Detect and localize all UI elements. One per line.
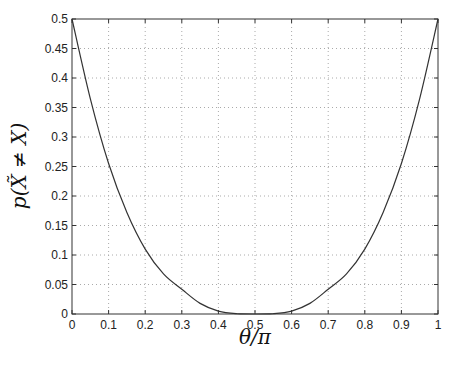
x-tick-label: 0.7: [320, 318, 337, 332]
y-tick-label: 0.25: [45, 160, 69, 174]
y-tick-label: 0.1: [51, 248, 68, 262]
y-tick-label: 0.5: [51, 12, 68, 26]
y-axis-label: p(X̃ ≠ X): [7, 123, 31, 209]
y-tick-label: 0.3: [51, 130, 68, 144]
x-tick-label: 1: [435, 318, 442, 332]
y-tick-label: 0.15: [45, 219, 69, 233]
x-tick-label: 0.1: [100, 318, 117, 332]
x-tick-label: 0.6: [283, 318, 300, 332]
x-tick-label: 0.2: [137, 318, 154, 332]
y-tick-label: 0.4: [51, 71, 68, 85]
x-tick-label: 0.4: [210, 318, 227, 332]
x-axis-label: θ/π: [239, 325, 272, 349]
y-tick-label: 0: [61, 307, 68, 321]
chart: 00.10.20.30.40.50.60.70.80.9100.050.10.1…: [0, 0, 458, 369]
y-tick-label: 0.45: [45, 42, 69, 56]
x-tick-label: 0.9: [393, 318, 410, 332]
x-tick-label: 0: [69, 318, 76, 332]
x-tick-label: 0.3: [173, 318, 190, 332]
x-tick-label: 0.8: [356, 318, 373, 332]
y-tick-label: 0.35: [45, 101, 69, 115]
y-tick-label: 0.2: [51, 189, 68, 203]
y-tick-label: 0.05: [45, 278, 69, 292]
